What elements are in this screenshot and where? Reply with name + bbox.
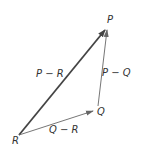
vector-label-p-minus-q: P − Q bbox=[102, 67, 131, 78]
point-label-q: Q bbox=[97, 106, 105, 117]
point-label-r: R bbox=[12, 135, 19, 146]
vector-label-p-minus-r: P − R bbox=[36, 68, 64, 79]
vector-label-q-minus-r: Q − R bbox=[49, 124, 79, 135]
vector-p-minus-r bbox=[19, 30, 105, 135]
point-label-p: P bbox=[107, 14, 114, 25]
diagram-svg: P Q R P − R P − Q Q − R bbox=[0, 0, 143, 151]
vector-triangle-diagram: P Q R P − R P − Q Q − R bbox=[0, 0, 143, 151]
